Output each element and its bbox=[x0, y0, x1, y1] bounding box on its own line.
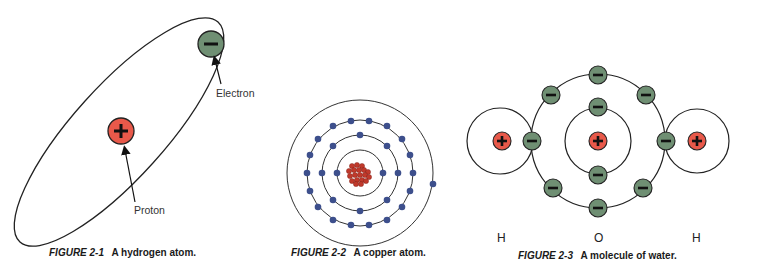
left-hydrogen-nucleus bbox=[493, 132, 511, 150]
electron bbox=[589, 98, 607, 116]
figure-hydrogen-atom: Electron Proton FIGURE 2-1 A hydrogen at… bbox=[0, 0, 255, 273]
proton-pointer-arrow bbox=[125, 150, 135, 202]
figure-2-3-caption: FIGURE 2-3 A molecule of water. bbox=[518, 250, 677, 261]
figures-canvas: Electron Proton FIGURE 2-1 A hydrogen at… bbox=[0, 0, 764, 274]
figure-number: FIGURE 2-3 bbox=[518, 250, 573, 261]
proton-label: Proton bbox=[134, 204, 165, 216]
figure-title: A copper atom. bbox=[353, 247, 426, 258]
figure-number: FIGURE 2-1 bbox=[49, 247, 104, 258]
figure-title: A hydrogen atom. bbox=[111, 247, 196, 258]
electron bbox=[637, 86, 655, 104]
bonding-electron-left bbox=[523, 132, 541, 150]
electron bbox=[634, 179, 652, 197]
atom-label-h-right: H bbox=[692, 231, 701, 245]
electron bbox=[542, 86, 560, 104]
figure-title: A molecule of water. bbox=[580, 250, 677, 261]
electron bbox=[589, 66, 607, 84]
electron bbox=[589, 199, 607, 217]
atom-label-o: O bbox=[594, 231, 603, 245]
hydrogen-proton bbox=[108, 118, 134, 144]
figure-copper-atom: FIGURE 2-2 A copper atom. bbox=[287, 100, 436, 258]
figure-2-2-caption: FIGURE 2-2 A copper atom. bbox=[291, 247, 426, 258]
copper-nucleus bbox=[346, 162, 371, 186]
atom-label-h-left: H bbox=[497, 231, 506, 245]
oxygen-nucleus bbox=[589, 132, 607, 150]
right-hydrogen-nucleus bbox=[688, 132, 706, 150]
figure-water-molecule: H O H FIGURE 2-3 A molecule of water. bbox=[467, 66, 729, 261]
bonding-electron-right bbox=[657, 132, 675, 150]
figure-number: FIGURE 2-2 bbox=[291, 247, 346, 258]
electron-label: Electron bbox=[216, 87, 255, 99]
hydrogen-electron bbox=[198, 31, 224, 57]
figure-2-1-caption: FIGURE 2-1 A hydrogen atom. bbox=[49, 247, 196, 258]
electron bbox=[544, 179, 562, 197]
electron bbox=[589, 166, 607, 184]
